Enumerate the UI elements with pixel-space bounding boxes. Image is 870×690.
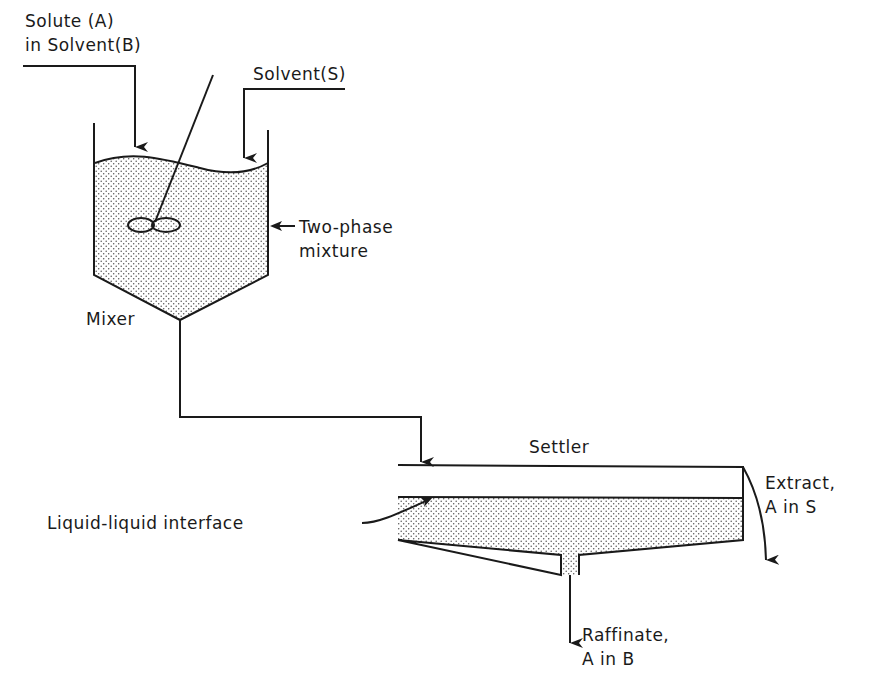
raffinate-stream: Raffinate, A in B (570, 575, 669, 669)
interface-label: Liquid-liquid interface (47, 513, 244, 533)
mixture-label-line2: mixture (299, 241, 368, 261)
extract-stream: Extract, A in S (743, 467, 835, 560)
settler-interface-line (398, 497, 743, 498)
mixer-liquid (95, 156, 268, 320)
settler-vessel (398, 465, 743, 575)
feed-label-line1: Solute (A) (25, 11, 114, 31)
settler-label: Settler (529, 437, 589, 457)
feed-stream: Solute (A) in Solvent(B) (23, 11, 141, 147)
transfer-line-arrow (180, 320, 421, 462)
feed-label-line2: in Solvent(B) (25, 35, 141, 55)
solvent-arrow (244, 89, 345, 158)
mixer-settler-diagram: Solute (A) in Solvent(B) Solvent(S) Two-… (0, 0, 870, 690)
extract-label-line1: Extract, (765, 473, 835, 493)
mixture-callout: Two-phase mixture (270, 217, 393, 261)
settler-heavy-phase (398, 497, 743, 575)
solvent-label: Solvent(S) (253, 64, 346, 84)
solvent-stream: Solvent(S) (244, 64, 346, 158)
feed-arrow (23, 66, 135, 147)
raffinate-label-line1: Raffinate, (582, 625, 669, 645)
extract-arrow (743, 467, 766, 560)
mixer-label: Mixer (86, 309, 135, 329)
interface-callout: Liquid-liquid interface (47, 497, 433, 533)
extract-label-line2: A in S (765, 497, 817, 517)
mixture-label-line1: Two-phase (298, 217, 393, 237)
raffinate-label-line2: A in B (582, 649, 635, 669)
mixer-vessel (94, 123, 268, 320)
